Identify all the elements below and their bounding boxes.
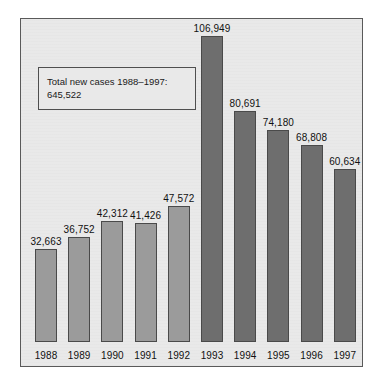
bar[interactable] bbox=[301, 145, 323, 342]
bar-year-label: 1997 bbox=[333, 350, 356, 361]
bar-value-label: 41,426 bbox=[130, 210, 161, 221]
bar-group: 60,6341997 bbox=[334, 20, 356, 366]
bar-group: 74,1801995 bbox=[267, 20, 289, 366]
bar[interactable] bbox=[101, 221, 123, 342]
bar-year-label: 1996 bbox=[300, 350, 323, 361]
bar-value-label: 32,663 bbox=[30, 236, 61, 247]
bar-group: 106,9491993 bbox=[201, 20, 223, 366]
bar[interactable] bbox=[334, 169, 356, 342]
bar[interactable] bbox=[201, 36, 223, 342]
bar-year-label: 1993 bbox=[201, 350, 224, 361]
bar-year-label: 1992 bbox=[167, 350, 190, 361]
bar-group: 80,6911994 bbox=[234, 20, 256, 366]
bar-year-label: 1994 bbox=[234, 350, 257, 361]
bar[interactable] bbox=[234, 111, 256, 342]
figure: 32,663198836,752198942,312199041,4261991… bbox=[0, 0, 380, 388]
bar-value-label: 60,634 bbox=[329, 156, 360, 167]
bar-value-label: 74,180 bbox=[263, 117, 294, 128]
bar-year-label: 1995 bbox=[267, 350, 290, 361]
bar-year-label: 1989 bbox=[68, 350, 91, 361]
bar-value-label: 80,691 bbox=[230, 98, 261, 109]
bar-group: 68,8081996 bbox=[301, 20, 323, 366]
bar[interactable] bbox=[168, 206, 190, 342]
bar[interactable] bbox=[267, 130, 289, 342]
bar-year-label: 1990 bbox=[101, 350, 124, 361]
bar[interactable] bbox=[35, 249, 57, 342]
bar-value-label: 68,808 bbox=[296, 132, 327, 143]
bar-year-label: 1988 bbox=[35, 350, 58, 361]
bar[interactable] bbox=[135, 223, 157, 342]
bar-year-label: 1991 bbox=[134, 350, 157, 361]
bar-value-label: 42,312 bbox=[97, 208, 128, 219]
bar[interactable] bbox=[68, 237, 90, 342]
bar-value-label: 106,949 bbox=[194, 23, 231, 34]
total-cases-annotation-box: Total new cases 1988–1997: 645,522 bbox=[38, 67, 196, 110]
bar-value-label: 36,752 bbox=[64, 224, 95, 235]
chart-plot-frame: 32,663198836,752198942,312199041,4261991… bbox=[20, 18, 363, 367]
bar-value-label: 47,572 bbox=[163, 193, 194, 204]
